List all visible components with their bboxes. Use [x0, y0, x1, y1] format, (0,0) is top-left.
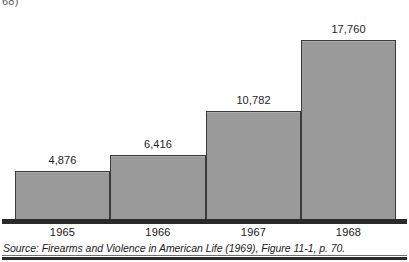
x-axis-baseline	[2, 219, 407, 224]
horizontal-rule-thin	[2, 255, 407, 256]
tick-label-1967: 1967	[206, 226, 301, 238]
tick-label-1968: 1968	[301, 226, 396, 238]
bar-1968	[301, 40, 396, 220]
bar-value-1967: 10,782	[206, 94, 301, 106]
bar-1966	[110, 155, 206, 220]
source-caption: Source: Firearms and Violence in America…	[3, 242, 345, 254]
bar-value-1965: 4,876	[15, 154, 110, 166]
bar-1965	[15, 171, 110, 220]
bar-chart-plot-area: 4,876 6,416 10,782 17,760	[0, 0, 409, 224]
tick-label-1966: 1966	[110, 226, 206, 238]
bar-value-1966: 6,416	[110, 138, 206, 150]
bar-value-1968: 17,760	[301, 23, 396, 35]
horizontal-rule-thick	[2, 257, 407, 260]
tick-label-1965: 1965	[15, 226, 110, 238]
bar-1967	[206, 111, 301, 220]
x-axis-tick-labels: 1965 1966 1967 1968	[0, 226, 409, 241]
